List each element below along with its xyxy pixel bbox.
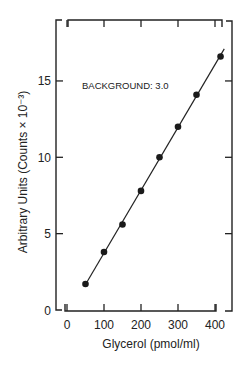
y-tick-label: 0	[44, 304, 51, 318]
data-point	[193, 91, 200, 98]
y-tick-label: 5	[44, 227, 51, 241]
data-point	[217, 53, 224, 60]
x-tick-label: 0	[64, 318, 71, 332]
right-axis	[225, 21, 232, 311]
data-point	[119, 221, 126, 228]
y-axis-ticks: 051015	[38, 74, 232, 317]
x-axis-label: Glycerol (pmol/ml)	[102, 337, 199, 351]
x-tick-label: 400	[205, 318, 225, 332]
x-tick-label: 300	[168, 318, 188, 332]
y-axis-label: Arbitrary Units (Counts × 10⁻³)	[16, 91, 30, 253]
x-tick-label: 200	[131, 318, 151, 332]
left-axis	[56, 20, 62, 310]
y-tick-label: 15	[38, 74, 52, 88]
data-point	[138, 188, 145, 195]
plot-frame	[56, 20, 232, 311]
data-point	[175, 123, 182, 130]
data-point	[82, 281, 89, 288]
data-point	[101, 249, 108, 256]
chart: 0100200300400 051015 BACKGROUND: 3.0 Gly…	[0, 0, 244, 371]
x-tick-label: 100	[94, 318, 114, 332]
background-annotation: BACKGROUND: 3.0	[82, 80, 169, 91]
data-point	[156, 154, 163, 161]
y-tick-label: 10	[38, 151, 52, 165]
top-axis	[68, 20, 222, 27]
